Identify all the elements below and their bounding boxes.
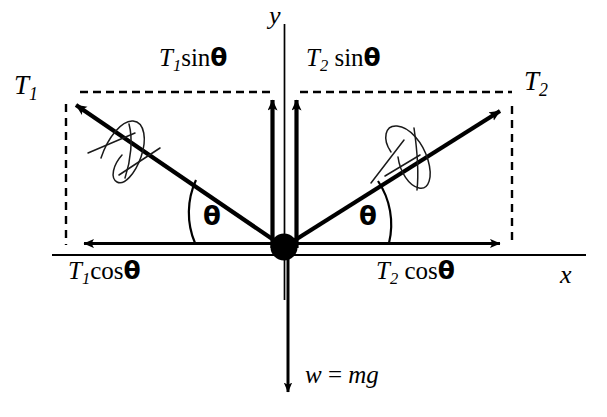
label-t1-sin-base: T [159, 44, 173, 71]
label-t1-sin-theta: T1sinθ [159, 45, 228, 75]
label-t2-cos-subscript: 2 [390, 269, 398, 288]
label-t1-cos-theta-symbol: θ [123, 256, 140, 285]
label-t2-sin-theta-symbol: θ [364, 43, 381, 72]
theta-right-arc [378, 181, 391, 243]
label-t2-cos-theta-symbol: θ [438, 256, 455, 285]
label-t2-base: T [524, 66, 539, 96]
label-t1-cos-trig: cos [90, 257, 123, 284]
label-t1-sin-theta-symbol: θ [210, 43, 227, 72]
point-mass-dot [271, 234, 298, 261]
diagram-vector-layer [0, 0, 607, 417]
label-weight-w: w [305, 361, 322, 388]
label-t2-sin-base: T [306, 44, 320, 71]
diagram-canvas: T1 T2 T1sinθ T2 sinθ T1cosθ T2 cosθ y x … [0, 0, 607, 417]
label-t2-sin-theta: T2 sinθ [306, 45, 381, 75]
label-t1: T1 [14, 72, 38, 104]
label-t2: T2 [524, 68, 548, 100]
label-theta-right: θ [359, 203, 377, 229]
label-weight-equation: w = mg [305, 362, 379, 387]
label-t1-sin-subscript: 1 [173, 56, 181, 75]
t1-tension-vector [76, 105, 284, 247]
guide-lines [66, 92, 512, 245]
label-t2-cos-base: T [376, 257, 390, 284]
label-t1-cos-base: T [68, 257, 82, 284]
theta-left-arc [189, 180, 196, 243]
label-theta-left: θ [203, 203, 221, 229]
label-weight-mg: mg [348, 361, 379, 388]
label-x-axis: x [560, 262, 572, 288]
label-t2-cos-theta: T2 cosθ [376, 258, 455, 288]
label-t2-sin-trig: sin [334, 44, 363, 71]
label-t2-cos-trig: cos [404, 257, 437, 284]
label-weight-equals: = [328, 361, 342, 388]
label-t1-base: T [14, 70, 29, 100]
label-y-axis: y [269, 3, 281, 29]
label-t1-cos-subscript: 1 [82, 269, 90, 288]
label-t1-subscript: 1 [29, 84, 38, 104]
label-t2-subscript: 2 [539, 80, 548, 100]
label-t2-sin-subscript: 2 [320, 56, 328, 75]
handwritten-mark-on-t2 [371, 126, 430, 190]
label-t1-sin-trig: sin [181, 44, 210, 71]
handwritten-mark-on-t1 [88, 121, 160, 183]
label-t1-cos-theta: T1cosθ [68, 258, 141, 288]
